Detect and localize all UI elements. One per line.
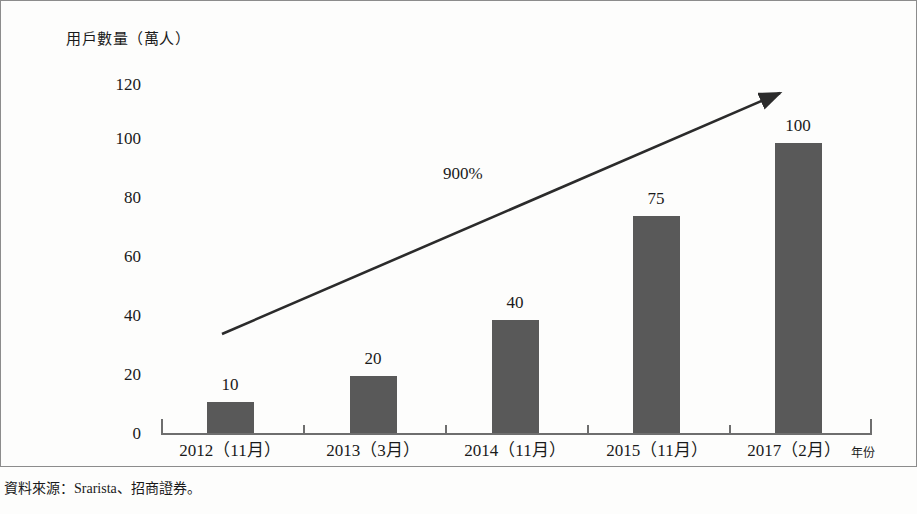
x-axis-end-stub — [870, 419, 872, 434]
bar-2014 — [492, 320, 539, 433]
bar-value-label: 40 — [485, 294, 545, 311]
bar-value-label: 75 — [626, 190, 686, 207]
plot-area: 120 100 80 60 40 20 0 10 20 40 75 100 — [0, 0, 917, 470]
y-axis-tick-label: 0 — [95, 425, 141, 442]
x-axis-tick — [587, 425, 589, 434]
y-axis-tick-label: 100 — [95, 130, 141, 147]
y-axis-origin-stub — [161, 419, 163, 434]
y-axis-tick-label: 20 — [95, 366, 141, 383]
bar-2017 — [775, 143, 822, 433]
y-axis-tick-label: 60 — [95, 248, 141, 265]
x-axis-category-label: 2013（3月） — [293, 441, 453, 461]
x-axis-category-label: 2017（2月） — [714, 441, 874, 461]
bar-2013 — [350, 376, 397, 433]
bar-value-label: 10 — [200, 376, 260, 393]
x-axis-tick — [303, 425, 305, 434]
bar-2012 — [207, 402, 254, 433]
y-axis-tick-label: 80 — [95, 189, 141, 206]
x-axis-category-label: 2014（11月） — [435, 441, 595, 461]
x-axis-tick — [729, 425, 731, 434]
bar-value-label: 20 — [343, 350, 403, 367]
x-axis-line — [161, 433, 872, 435]
bar-value-label: 100 — [768, 117, 828, 134]
x-axis-category-label: 2015（11月） — [577, 441, 737, 461]
y-axis-tick-label: 120 — [95, 76, 141, 93]
x-axis-tick — [445, 425, 447, 434]
x-axis-title: 年份 — [851, 447, 875, 460]
y-axis-tick-label: 40 — [95, 307, 141, 324]
chart-figure: 用戶數量（萬人） 120 100 80 60 40 20 0 10 20 40 … — [0, 0, 917, 514]
source-note: 資料來源：Srarista、招商證券。 — [4, 481, 201, 497]
growth-rate-annotation: 900% — [443, 165, 483, 182]
x-axis-category-label: 2012（11月） — [150, 441, 310, 461]
bar-2015 — [633, 216, 680, 433]
